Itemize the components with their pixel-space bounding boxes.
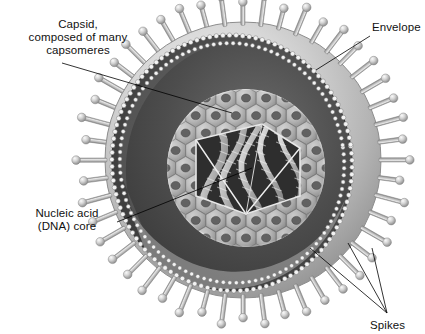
membrane-bead xyxy=(349,179,354,184)
membrane-bead xyxy=(145,81,149,85)
membrane-bead xyxy=(332,96,337,101)
membrane-bead xyxy=(176,45,181,50)
membrane-bead xyxy=(333,116,337,120)
spike-knob xyxy=(175,4,184,13)
membrane-bead xyxy=(192,282,197,287)
membrane-bead xyxy=(326,225,330,229)
membrane-bead xyxy=(180,276,185,281)
membrane-bead xyxy=(212,42,216,46)
membrane-bead xyxy=(345,129,350,134)
spike-knob xyxy=(281,310,290,319)
spike xyxy=(138,266,162,295)
membrane-bead xyxy=(273,42,278,47)
membrane-bead xyxy=(187,50,191,54)
membrane-bead xyxy=(118,164,122,168)
membrane-bead xyxy=(124,198,128,202)
spike-knob xyxy=(302,3,311,12)
membrane-bead xyxy=(122,103,127,108)
membrane-bead xyxy=(165,52,170,57)
spike-knob xyxy=(110,58,119,67)
spike xyxy=(374,193,409,207)
spike-knob xyxy=(383,238,392,247)
spike-knob xyxy=(217,0,226,1)
spike xyxy=(368,94,398,111)
spike-knob xyxy=(79,177,88,186)
membrane-bead xyxy=(292,63,296,67)
spike-knob xyxy=(239,313,248,322)
spike xyxy=(217,0,227,27)
spike-knob xyxy=(369,56,378,65)
spike-knob xyxy=(78,198,87,207)
membrane-bead xyxy=(228,281,232,285)
membrane-bead xyxy=(111,136,116,141)
membrane-bead xyxy=(123,123,127,127)
membrane-bead xyxy=(341,115,346,120)
spike xyxy=(259,0,269,27)
membrane-bead xyxy=(305,262,310,267)
membrane-bead xyxy=(122,191,126,195)
spike xyxy=(360,74,390,94)
membrane-bead xyxy=(350,165,355,170)
membrane-bead xyxy=(221,280,225,284)
spike xyxy=(276,289,289,318)
spike-rod xyxy=(76,158,107,162)
membrane-bead xyxy=(238,42,242,46)
membrane-bead xyxy=(308,76,312,80)
membrane-bead xyxy=(114,123,119,128)
spike-knob xyxy=(319,18,328,27)
spike xyxy=(175,284,193,317)
membrane-bead xyxy=(147,240,151,244)
membrane-bead xyxy=(127,225,132,230)
spike xyxy=(77,113,112,127)
spike-knob xyxy=(261,319,270,328)
membrane-bead xyxy=(257,45,261,49)
spike-knob xyxy=(339,285,348,294)
membrane-bead xyxy=(254,279,258,283)
membrane-bead xyxy=(186,279,191,284)
membrane-bead xyxy=(322,231,326,235)
membrane-bead xyxy=(241,281,245,285)
spike-knob xyxy=(72,156,81,165)
membrane-bead xyxy=(196,274,200,278)
spike xyxy=(368,209,396,224)
membrane-bead xyxy=(288,273,293,278)
spike-knob xyxy=(387,216,396,225)
membrane-bead xyxy=(270,282,275,287)
membrane-bead xyxy=(118,171,122,175)
membrane-bead xyxy=(201,36,206,41)
membrane-bead xyxy=(221,33,226,38)
membrane-bead xyxy=(318,237,322,241)
membrane-bead xyxy=(195,38,200,43)
membrane-bead xyxy=(121,212,126,217)
membrane-bead xyxy=(126,205,130,209)
membrane-bead xyxy=(284,267,288,271)
membrane-bead xyxy=(323,243,328,248)
membrane-bead xyxy=(144,69,149,74)
membrane-bead xyxy=(121,130,125,134)
label-nucleic-acid-line2: (DNA) core xyxy=(18,220,116,233)
membrane-bead xyxy=(342,159,346,163)
membrane-bead xyxy=(276,279,281,284)
spike-knob xyxy=(108,255,117,264)
membrane-bead xyxy=(175,55,179,59)
membrane-bead xyxy=(225,288,230,293)
membrane-bead xyxy=(125,97,130,102)
membrane-bead xyxy=(342,152,346,156)
membrane-bead xyxy=(157,261,162,266)
membrane-bead xyxy=(344,122,349,127)
membrane-bead xyxy=(110,143,115,148)
spike xyxy=(110,58,136,80)
spike xyxy=(175,4,193,36)
membrane-bead xyxy=(182,42,187,47)
membrane-bead xyxy=(264,284,269,289)
membrane-bead xyxy=(138,242,143,247)
membrane-bead xyxy=(149,64,154,69)
label-nucleic-acid: Nucleic acid (DNA) core xyxy=(18,207,116,233)
spike xyxy=(239,295,248,322)
membrane-bead xyxy=(184,269,188,273)
membrane-bead xyxy=(212,287,217,292)
membrane-bead xyxy=(342,166,346,170)
membrane-bead xyxy=(340,213,345,218)
membrane-bead xyxy=(110,171,115,176)
spike-knob xyxy=(217,320,226,329)
